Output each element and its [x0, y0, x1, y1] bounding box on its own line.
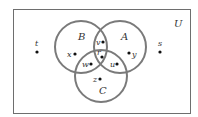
- set-circle-b: [55, 21, 107, 73]
- point-dot-x: [73, 52, 76, 55]
- point-dot-s: [158, 50, 161, 53]
- point-t: t: [35, 39, 39, 54]
- point-label-s: s: [158, 39, 162, 48]
- point-u: u: [110, 60, 119, 69]
- point-dot-z: [98, 77, 101, 80]
- point-label-v: v: [96, 38, 101, 47]
- point-dot-u: [115, 62, 118, 65]
- point-dot-t: [35, 50, 38, 53]
- point-dot-r: [100, 55, 103, 58]
- point-label-u: u: [110, 60, 115, 69]
- venn-diagram: U BAC tsxyvrwuz: [0, 0, 198, 117]
- point-label-t: t: [35, 39, 39, 48]
- set-label-b: B: [77, 31, 85, 42]
- point-x: x: [67, 50, 77, 59]
- point-dot-w: [89, 62, 92, 65]
- point-dot-y: [127, 51, 130, 54]
- point-s: s: [158, 39, 162, 54]
- point-w: w: [82, 60, 93, 69]
- point-v: v: [96, 38, 105, 47]
- point-label-x: x: [67, 50, 72, 59]
- set-circle-a: [94, 21, 146, 73]
- sets-layer: BAC: [55, 21, 146, 102]
- universe-label: U: [174, 18, 183, 29]
- point-z: z: [92, 75, 102, 84]
- point-label-w: w: [82, 60, 89, 69]
- set-label-c: C: [99, 85, 107, 96]
- point-label-y: y: [131, 50, 137, 59]
- point-y: y: [127, 50, 137, 59]
- point-dot-v: [101, 40, 104, 43]
- set-label-a: A: [120, 31, 128, 42]
- point-label-z: z: [92, 75, 98, 84]
